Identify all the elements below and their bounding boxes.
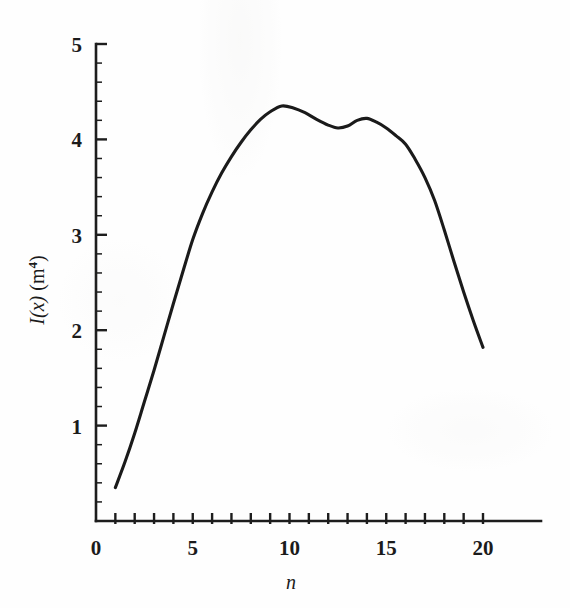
x-tick-label: 10 xyxy=(279,536,300,560)
y-tick-label: 2 xyxy=(72,319,83,343)
x-axis-tick-labels: 05101520 xyxy=(91,536,494,560)
x-tick-label: 15 xyxy=(376,536,397,560)
y-axis-title-symbol: I(x) xyxy=(26,295,49,325)
x-tick-label: 5 xyxy=(188,536,199,560)
y-axis-tick-labels: 12345 xyxy=(72,33,83,439)
data-curve-line xyxy=(115,106,483,488)
x-tick-label: 0 xyxy=(91,536,102,560)
x-axis-title: n xyxy=(286,571,296,593)
x-tick-label: 20 xyxy=(473,536,494,560)
y-tick-label: 5 xyxy=(72,33,83,57)
chart-plot: 12345 05101520 I(x)(m4) n xyxy=(0,0,570,608)
y-tick-label: 4 xyxy=(72,128,83,152)
y-axis-title: I(x)(m4) xyxy=(25,255,50,325)
svg-text:I(x)(m4): I(x)(m4) xyxy=(25,255,50,325)
figure-container: 12345 05101520 I(x)(m4) n xyxy=(0,0,570,608)
y-axis-title-unit-open: (m xyxy=(26,268,49,291)
x-axis-ticks xyxy=(115,513,483,524)
y-axis-ticks xyxy=(96,44,107,502)
y-axis-title-unit-close: ) xyxy=(26,255,49,262)
y-tick-label: 1 xyxy=(72,415,83,439)
y-tick-label: 3 xyxy=(72,224,83,248)
